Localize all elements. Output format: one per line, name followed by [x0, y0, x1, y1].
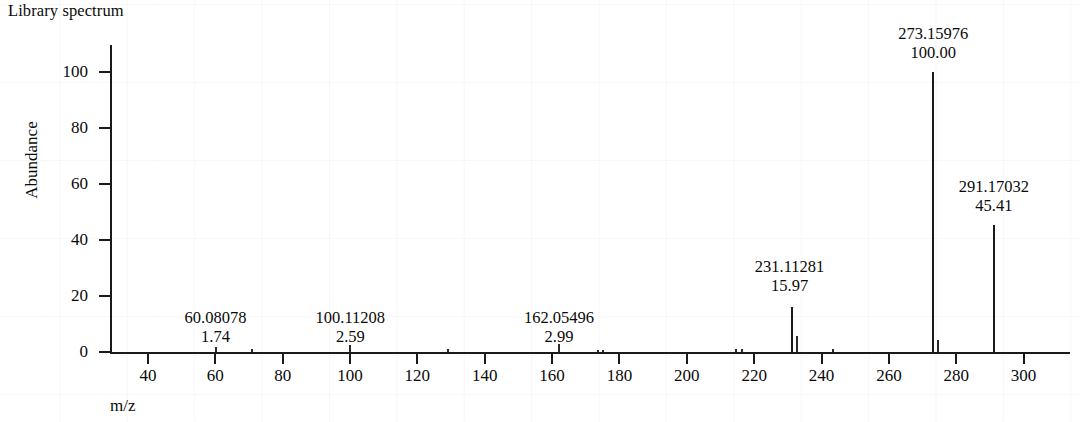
x-axis-tick-label: 220 [724, 366, 784, 385]
spectrum-page: Library spectrum Abundance m/z 020406080… [0, 0, 1080, 422]
x-axis-tick [349, 353, 351, 364]
peak-annotation: 162.054962.99 [474, 308, 644, 346]
peak-mz-label: 231.11281 [705, 257, 875, 276]
x-axis-tick [147, 353, 149, 364]
spectrum-peak [741, 349, 743, 352]
peak-mz-label: 273.15976 [848, 24, 1018, 43]
peak-abundance-label: 2.99 [474, 327, 644, 346]
y-axis-tick-label: 0 [32, 343, 88, 360]
peak-mz-label: 100.11208 [265, 308, 435, 327]
spectrum-peak [796, 336, 798, 352]
y-axis-line [110, 45, 112, 353]
peak-abundance-label: 2.59 [265, 327, 435, 346]
peak-annotation: 231.1128115.97 [705, 257, 875, 295]
y-axis-tick [99, 127, 112, 129]
x-axis-tick [686, 353, 688, 364]
x-axis-tick [214, 353, 216, 364]
y-axis-tick [99, 295, 112, 297]
x-axis-tick-label: 160 [522, 366, 582, 385]
peak-mz-label: 162.05496 [474, 308, 644, 327]
x-axis-tick-label: 80 [253, 366, 313, 385]
peak-abundance-label: 100.00 [848, 43, 1018, 62]
x-axis-tick [955, 353, 957, 364]
spectrum-peak [251, 349, 253, 352]
spectrum-peak [937, 340, 939, 352]
x-axis-tick-label: 260 [859, 366, 919, 385]
x-axis-tick-label: 100 [320, 366, 380, 385]
x-axis-tick-label: 180 [589, 366, 649, 385]
peak-abundance-label: 15.97 [705, 276, 875, 295]
spectrum-peak [447, 349, 449, 352]
x-axis-tick [282, 353, 284, 364]
x-axis-title: m/z [110, 396, 136, 416]
x-axis-tick-label: 120 [387, 366, 447, 385]
y-axis-tick [99, 239, 112, 241]
spectrum-peak [791, 307, 793, 352]
y-axis-tick-label: 100 [32, 63, 88, 80]
y-axis-tick-label: 60 [32, 175, 88, 192]
y-axis-tick [99, 183, 112, 185]
x-axis-tick-label: 280 [926, 366, 986, 385]
peak-annotation: 273.15976100.00 [848, 24, 1018, 62]
x-axis-tick [618, 353, 620, 364]
x-axis-tick [416, 353, 418, 364]
spectrum-peak [602, 350, 604, 352]
x-axis-tick-label: 60 [185, 366, 245, 385]
x-axis-tick [1023, 353, 1025, 364]
spectrum-peak [597, 350, 599, 352]
spectrum-peak [215, 347, 217, 352]
spectrum-peak [832, 349, 834, 352]
spectrum-peak [993, 225, 995, 352]
spectrum-peak [735, 349, 737, 352]
x-axis-tick-label: 240 [792, 366, 852, 385]
peak-abundance-label: 45.41 [909, 196, 1079, 215]
x-axis-line [110, 352, 1070, 354]
x-axis-tick-label: 300 [994, 366, 1054, 385]
y-axis-tick-label: 40 [32, 231, 88, 248]
y-axis-tick [99, 351, 112, 353]
y-axis-tick-label: 80 [32, 119, 88, 136]
x-axis-tick [551, 353, 553, 364]
peak-mz-label: 291.17032 [909, 177, 1079, 196]
plot-area: Abundance m/z 020406080100 4060801001201… [0, 0, 1080, 422]
x-axis-tick [753, 353, 755, 364]
x-axis-tick-label: 200 [657, 366, 717, 385]
x-axis-tick-label: 140 [455, 366, 515, 385]
y-axis-tick-label: 20 [32, 287, 88, 304]
peak-annotation: 100.112082.59 [265, 308, 435, 346]
x-axis-tick-label: 40 [118, 366, 178, 385]
y-axis-tick [99, 71, 112, 73]
x-axis-tick [484, 353, 486, 364]
peak-annotation: 291.1703245.41 [909, 177, 1079, 215]
x-axis-tick [888, 353, 890, 364]
x-axis-tick [821, 353, 823, 364]
